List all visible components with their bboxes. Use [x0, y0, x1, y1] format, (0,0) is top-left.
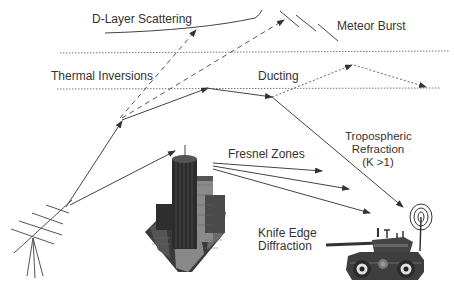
lower-layer-boundary — [57, 88, 440, 89]
duct-ray-down — [354, 65, 426, 87]
label-thermal-inversions: Thermal Inversions — [51, 70, 153, 83]
skyscraper-icon — [145, 145, 226, 272]
label-ducting: Ducting — [258, 70, 299, 83]
label-tropospheric-refraction: Tropospheric Refraction (K >1) — [345, 130, 411, 169]
ray-antenna-up — [66, 121, 122, 207]
ray-to-inversion — [122, 88, 208, 120]
label-d-layer-scattering: D-Layer Scattering — [92, 13, 192, 26]
yagi-antenna-icon — [11, 200, 72, 278]
ray-inversion-to-duct — [206, 88, 272, 97]
label-tropo-line3: (K >1) — [345, 156, 411, 169]
fresnel-rays — [213, 163, 370, 213]
meteor-streaks — [280, 11, 338, 41]
label-fresnel-zones: Fresnel Zones — [228, 148, 305, 161]
armored-vehicle-icon — [326, 204, 432, 280]
label-knife-line2: Diffraction — [258, 240, 317, 253]
label-meteor-burst: Meteor Burst — [337, 20, 406, 33]
label-tropo-line2: Refraction — [345, 143, 411, 156]
label-tropo-line1: Tropospheric — [345, 130, 411, 143]
label-knife-edge-diffraction: Knife Edge Diffraction — [258, 227, 317, 253]
ray-to-building — [70, 151, 175, 205]
upper-layer-boundary — [60, 51, 450, 53]
